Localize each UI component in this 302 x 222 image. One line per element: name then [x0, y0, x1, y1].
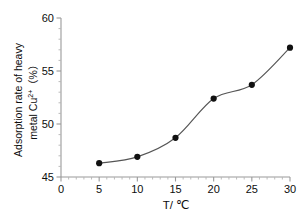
x-axis-tick-label: 20 [208, 183, 220, 195]
series-markers [96, 45, 293, 167]
data-point [249, 82, 255, 88]
x-axis-tick-label: 5 [96, 183, 102, 195]
y-axis-title-line2-prefix: metal Cu [27, 98, 39, 140]
chart-figure: 45505560 051015202530 T/ ℃ Adsorption ra… [0, 0, 302, 222]
data-point [172, 135, 178, 141]
x-axis-tick-label: 25 [246, 183, 258, 195]
y-axis-title: Adsorption rate of heavy metal Cu2+（%） [6, 14, 46, 186]
x-axis-major-ticks [61, 177, 290, 182]
data-point [211, 95, 217, 101]
x-axis-tick-label: 0 [58, 183, 64, 195]
axis-lines [61, 18, 290, 177]
x-axis-title: T/ ℃ [163, 198, 189, 212]
data-point [287, 45, 293, 51]
y-axis-title-line1: Adsorption rate of heavy [12, 43, 24, 157]
y-axis-title-line2-suffix: （%） [27, 60, 39, 89]
data-point [134, 154, 140, 160]
x-axis-tick-label: 15 [169, 183, 181, 195]
data-point [96, 160, 102, 166]
x-axis-tick-label: 30 [284, 183, 296, 195]
x-axis-tick-label: 10 [131, 183, 143, 195]
y-axis-major-ticks [57, 18, 62, 177]
y-axis-title-line2: metal Cu2+（%） [26, 12, 41, 188]
y-axis-title-superscript: 2+ [27, 90, 35, 98]
series-line [99, 48, 290, 164]
